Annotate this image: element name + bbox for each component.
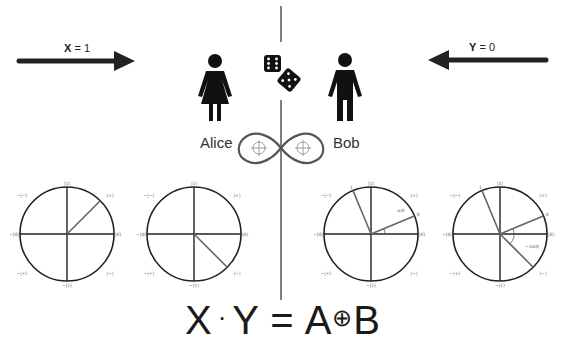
state-vector xyxy=(67,201,100,234)
state-vector xyxy=(353,191,371,234)
label-neg-ket-0: −|0⟩ xyxy=(9,232,19,238)
basis-circle-alice-basis-1: |1⟩−|1⟩−|0⟩|0⟩|+⟩−|−⟩−|+⟩|−⟩ xyxy=(9,181,121,289)
label-neg-ket-minus: −|−⟩ xyxy=(144,193,155,199)
x-label: X = 1 xyxy=(64,42,90,54)
label-neg-ket-0: −|0⟩ xyxy=(136,232,146,238)
label-ket-0: |0⟩ xyxy=(115,232,121,238)
state-vector xyxy=(194,234,227,267)
label-ket-1: |1⟩ xyxy=(368,181,374,187)
x-input-arrow: X = 1 xyxy=(19,42,135,71)
label-neg-ket-1: −|1⟩ xyxy=(189,283,199,289)
label-neg-ket-1: −|1⟩ xyxy=(62,283,72,289)
label-ket-plus: |+⟩ xyxy=(540,193,547,199)
angle-arc xyxy=(510,229,514,244)
angle-label: −3π/8 xyxy=(525,244,539,249)
eq-dot: · xyxy=(218,302,227,333)
state-vector xyxy=(371,216,414,234)
eq-equals: = xyxy=(259,298,305,343)
basis-circle-bob-basis-2: |1⟩−|1⟩−|0⟩|0⟩|+⟩−|−⟩−|+⟩|−⟩10−3π/8 xyxy=(442,181,554,289)
win-condition-equation: X·Y = A⊕B xyxy=(0,298,565,343)
label-neg-ket-minus: −|−⟩ xyxy=(17,193,28,199)
vector-label: 0 xyxy=(417,212,420,217)
state-vector xyxy=(500,234,533,267)
diagram-canvas: X = 1 Y = 0 Alice Bob xyxy=(0,0,565,348)
basis-circle-bob-basis-1: |1⟩−|1⟩−|0⟩|0⟩|+⟩−|−⟩−|+⟩|−⟩10π/8 xyxy=(313,181,425,289)
label-ket-minus: |−⟩ xyxy=(107,271,114,277)
y-label: Y = 0 xyxy=(469,41,495,53)
label-neg-ket-minus: −|−⟩ xyxy=(321,193,332,199)
label-neg-ket-plus: −|+⟩ xyxy=(321,271,332,277)
alice-figure-icon xyxy=(198,54,232,121)
bob-figure-icon xyxy=(328,53,362,121)
basis-circle-alice-basis-2: |1⟩−|1⟩−|0⟩|0⟩|+⟩−|−⟩−|+⟩|−⟩ xyxy=(136,181,248,289)
alice-label: Alice xyxy=(200,134,233,151)
label-neg-ket-plus: −|+⟩ xyxy=(17,271,28,277)
vector-label: 1 xyxy=(350,185,353,190)
label-ket-1: |1⟩ xyxy=(64,181,70,187)
label-neg-ket-plus: −|+⟩ xyxy=(450,271,461,277)
vector-label: 1 xyxy=(479,185,482,190)
label-ket-minus: |−⟩ xyxy=(234,271,241,277)
eq-oplus: ⊕ xyxy=(332,304,352,332)
label-neg-ket-1: −|1⟩ xyxy=(366,283,376,289)
label-neg-ket-minus: −|−⟩ xyxy=(450,193,461,199)
label-ket-0: |0⟩ xyxy=(548,232,554,238)
label-ket-plus: |+⟩ xyxy=(411,193,418,199)
label-ket-1: |1⟩ xyxy=(497,181,503,187)
state-vector xyxy=(500,216,543,234)
label-neg-ket-1: −|1⟩ xyxy=(495,283,505,289)
label-neg-ket-0: −|0⟩ xyxy=(442,232,452,238)
label-ket-minus: |−⟩ xyxy=(411,271,418,277)
angle-arc xyxy=(384,229,385,234)
bob-label: Bob xyxy=(333,134,360,151)
eq-a: A xyxy=(305,298,332,343)
y-input-arrow: Y = 0 xyxy=(428,41,546,70)
label-ket-1: |1⟩ xyxy=(191,181,197,187)
eq-b: B xyxy=(353,298,380,343)
label-ket-0: |0⟩ xyxy=(242,232,248,238)
eq-x: X xyxy=(185,298,212,343)
label-ket-plus: |+⟩ xyxy=(107,193,114,199)
label-neg-ket-0: −|0⟩ xyxy=(313,232,323,238)
vector-label: 0 xyxy=(546,212,549,217)
label-ket-minus: |−⟩ xyxy=(540,271,547,277)
eq-y: Y xyxy=(232,298,259,343)
angle-label: π/8 xyxy=(397,208,404,213)
state-vector xyxy=(482,191,500,234)
dice-icon xyxy=(264,55,302,93)
label-ket-0: |0⟩ xyxy=(419,232,425,238)
label-ket-plus: |+⟩ xyxy=(234,193,241,199)
label-neg-ket-plus: −|+⟩ xyxy=(144,271,155,277)
